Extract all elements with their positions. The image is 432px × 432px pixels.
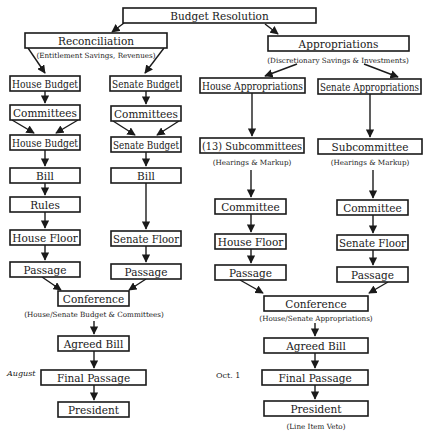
node-house-floor-approp: House Floor (215, 234, 286, 249)
node-label: Bill (36, 170, 54, 182)
node-final-passage-budget: Final Passage (41, 370, 146, 385)
node-bill-house: Bill (10, 168, 80, 183)
senate-subcommittee-note: (Hearings & Markup) (331, 158, 410, 167)
node-label: House Floor (218, 236, 284, 248)
node-senate-floor-budget: Senate Floor (111, 231, 181, 246)
node-passage-house-approp: Passage (215, 265, 286, 280)
node-committee-house-approp: Committee (215, 199, 286, 214)
node-committees-senate: Committees (111, 106, 181, 121)
node-house-budget-1: House Budget (10, 76, 80, 91)
node-label: Committee (343, 202, 402, 214)
flow-boxes: Budget ResolutionReconciliationAppropria… (10, 8, 422, 417)
node-appropriations: Appropriations (268, 36, 409, 51)
node-president-budget: President (58, 402, 129, 417)
node-label: Bill (137, 170, 155, 182)
node-house-floor-budget: House Floor (10, 230, 80, 245)
node-label: Senate Budget (112, 78, 180, 90)
arrow-committees-senate-to-senate-budget-2 (113, 121, 135, 135)
arrow-budget-resolution-to-appropriations (265, 24, 278, 34)
arrow-passage-senate-budget-to-conference-budget (129, 279, 146, 290)
date-august: August (6, 369, 36, 378)
node-label: (13) Subcommittees (202, 140, 302, 152)
president-approp-note: (Line Item Veto) (287, 422, 346, 431)
appropriations-note: (Discretionary Savings & Investments) (267, 56, 409, 65)
node-label: Committee (221, 201, 280, 213)
node-senate-budget-2: Senate Budget (111, 137, 181, 152)
arrow-passage-house-approp-to-conference-approp (240, 280, 263, 293)
node-label: Budget Resolution (170, 10, 269, 22)
node-label: President (291, 403, 343, 415)
node-house-budget-2: House Budget (10, 135, 80, 150)
node-label: Passage (351, 269, 394, 281)
node-agreed-bill-budget: Agreed Bill (58, 336, 129, 351)
node-house-subcommittees: (13) Subcommittees (200, 138, 304, 153)
arrow-budget-resolution-to-reconciliation (112, 23, 124, 32)
node-agreed-bill-approp: Agreed Bill (264, 338, 368, 353)
node-label: Agreed Bill (63, 338, 124, 350)
node-label: Passage (125, 266, 168, 278)
node-label: Senate Budget (113, 139, 180, 151)
node-rules-house: Rules (10, 197, 80, 212)
arrow-passage-senate-approp-to-conference-approp (369, 282, 388, 293)
node-president-approp: President (264, 401, 368, 416)
date-oct1: Oct. 1 (216, 371, 240, 380)
node-senate-appropriations: Senate Appropriations (318, 79, 421, 94)
node-label: Agreed Bill (285, 340, 346, 352)
node-label: Committees (13, 107, 77, 119)
node-budget-resolution: Budget Resolution (123, 8, 316, 23)
node-committees-house: Committees (10, 105, 80, 120)
node-label: Final Passage (278, 372, 351, 384)
node-passage-senate-budget: Passage (111, 264, 181, 279)
conference-approp-note: (House/Senate Appropriations) (259, 314, 373, 323)
arrow-passage-house-budget-to-conference-budget (42, 277, 61, 290)
node-reconciliation: Reconciliation (25, 33, 167, 48)
node-house-appropriations: House Appropriations (200, 78, 305, 93)
node-committee-senate-approp: Committee (337, 200, 408, 215)
node-label: Conference (285, 298, 346, 310)
node-passage-house-budget: Passage (10, 262, 80, 277)
arrow-appropriations-to-house-appropriations (265, 64, 297, 76)
arrow-committees-senate-to-senate-budget-2 (157, 121, 179, 135)
node-label: House Budget (12, 78, 79, 90)
node-label: President (68, 404, 120, 416)
node-label: Final Passage (57, 372, 130, 384)
node-label: House Floor (12, 232, 78, 244)
node-label: Conference (63, 293, 124, 305)
node-label: House Appropriations (202, 80, 303, 92)
node-label: Passage (24, 264, 67, 276)
reconciliation-note: (Entitlement Savings, Revenues) (36, 51, 155, 60)
node-senate-subcommittee: Subcommittee (318, 139, 422, 154)
node-label: Appropriations (298, 38, 379, 50)
node-label: Subcommittee (331, 141, 408, 153)
node-final-passage-approp: Final Passage (262, 370, 368, 385)
arrow-appropriations-to-senate-appropriations (364, 64, 398, 77)
node-label: Passage (229, 267, 272, 279)
node-passage-senate-approp: Passage (337, 267, 408, 282)
node-senate-budget-1: Senate Budget (110, 76, 181, 91)
node-label: House Budget (12, 137, 79, 149)
node-label: Rules (30, 199, 60, 211)
node-bill-senate: Bill (111, 168, 181, 183)
node-senate-floor-approp: Senate Floor (337, 235, 408, 250)
house-subcommittees-note: (Hearings & Markup) (213, 158, 292, 167)
node-conference-budget: Conference (58, 291, 129, 306)
arrow-committees-house-to-house-budget-2 (56, 120, 78, 133)
arrow-committees-house-to-house-budget-2 (12, 120, 34, 133)
budget-process-flowchart: Budget ResolutionReconciliationAppropria… (0, 0, 432, 432)
node-conference-approp: Conference (264, 296, 368, 311)
node-label: Senate Appropriations (320, 81, 419, 93)
node-label: Senate Floor (113, 233, 180, 245)
conference-budget-note: (House/Senate Budget & Committees) (24, 310, 164, 319)
node-label: Committees (114, 108, 178, 120)
node-label: Reconciliation (58, 35, 134, 47)
node-label: Senate Floor (339, 237, 407, 249)
